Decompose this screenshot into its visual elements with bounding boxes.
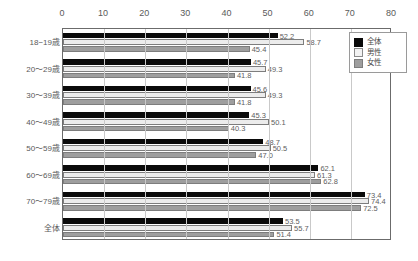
legend-item[interactable]: 全体 (354, 38, 403, 47)
bar-row: 55.7 (63, 225, 390, 231)
y-category-label: 70～79歳 (2, 195, 60, 206)
y-category-label: 18−19歳 (2, 36, 60, 47)
bar-group: 48.750.547.0 (63, 139, 390, 158)
y-category-label: 50～59歳 (2, 142, 60, 153)
bar-全体-20～29歳 (63, 59, 251, 65)
bar-女性-全体 (63, 232, 274, 238)
bar-value-label: 41.8 (235, 97, 252, 106)
bar-男性-60～69歳 (63, 172, 315, 178)
x-axis-tick-60: 60 (304, 8, 314, 18)
bar-groups: 52.258.745.445.749.341.845.649.341.845.3… (63, 29, 390, 239)
x-axis-tick-40: 40 (221, 8, 231, 18)
legend-item[interactable]: 男性 (354, 48, 403, 57)
bar-row: 62.1 (63, 165, 390, 171)
bar-全体-70～79歳 (63, 192, 365, 198)
bar-女性-70～79歳 (63, 205, 361, 211)
bar-group: 73.474.472.5 (63, 192, 390, 211)
bar-row: 74.4 (63, 198, 390, 204)
x-axis-tick-80: 80 (386, 8, 396, 18)
x-axis-tick-70: 70 (345, 8, 355, 18)
gridline-50 (269, 29, 270, 239)
gridline-30 (186, 29, 187, 239)
y-category-label: 30～39歳 (2, 89, 60, 100)
bar-group: 45.649.341.8 (63, 86, 390, 105)
bar-row: 47.0 (63, 152, 390, 158)
bar-group: 45.350.140.3 (63, 112, 390, 131)
bar-row: 61.3 (63, 172, 390, 178)
legend-label: 女性 (367, 59, 381, 67)
y-category-label: 全体 (2, 221, 60, 232)
bar-row: 41.8 (63, 73, 390, 79)
bar-row: 48.7 (63, 139, 390, 145)
bar-value-label: 40.3 (229, 124, 246, 133)
bar-全体-40～49歳 (63, 112, 249, 118)
gridline-40 (228, 29, 229, 239)
bar-row: 49.3 (63, 92, 390, 98)
y-category-label: 20～29歳 (2, 62, 60, 73)
legend-swatch-icon (354, 38, 363, 47)
legend-label: 全体 (367, 38, 381, 46)
bar-row: 73.4 (63, 192, 390, 198)
x-axis-tick-20: 20 (139, 8, 149, 18)
bar-value-label: 62.8 (321, 177, 338, 186)
gridline-20 (145, 29, 146, 239)
bar-group: 45.749.341.8 (63, 59, 390, 78)
bar-全体-30～39歳 (63, 86, 251, 92)
bar-row: 45.6 (63, 86, 390, 92)
x-axis-tick-labels: 01020304050607080 (62, 8, 391, 26)
bar-row: 45.4 (63, 46, 390, 52)
bar-女性-20～29歳 (63, 73, 235, 79)
bar-value-label: 41.8 (235, 71, 252, 80)
legend-label: 男性 (367, 49, 381, 57)
chart-legend: 全体男性女性 (349, 32, 407, 73)
bar-row: 45.7 (63, 59, 390, 65)
bar-row: 52.2 (63, 33, 390, 39)
y-axis-category-labels: 18−19歳20～29歳30～39歳40～49歳50～59歳60～69歳70～7… (0, 28, 60, 240)
bar-row: 53.5 (63, 218, 390, 224)
bar-chart: 01020304050607080 18−19歳20～29歳30～39歳40～4… (0, 0, 418, 261)
y-category-label: 60～69歳 (2, 168, 60, 179)
plot-area: 52.258.745.445.749.341.845.649.341.845.3… (62, 28, 391, 240)
bar-group: 52.258.745.4 (63, 33, 390, 52)
bar-row: 41.8 (63, 99, 390, 105)
legend-item[interactable]: 女性 (354, 59, 403, 68)
bar-row: 45.3 (63, 112, 390, 118)
bar-row: 51.4 (63, 232, 390, 238)
bar-女性-18−19歳 (63, 46, 250, 52)
bar-row: 62.8 (63, 179, 390, 185)
bar-row: 40.3 (63, 126, 390, 132)
bar-value-label: 72.5 (361, 203, 378, 212)
bar-全体-60～69歳 (63, 165, 318, 171)
bar-男性-70～79歳 (63, 198, 369, 204)
bar-row: 58.7 (63, 39, 390, 45)
bar-女性-60～69歳 (63, 179, 321, 185)
bar-value-label: 51.4 (274, 230, 291, 239)
bar-row: 50.1 (63, 119, 390, 125)
bar-row: 72.5 (63, 205, 390, 211)
bar-男性-全体 (63, 225, 292, 231)
bar-row: 49.3 (63, 66, 390, 72)
gridline-10 (104, 29, 105, 239)
gridline-60 (310, 29, 311, 239)
bar-男性-50～59歳 (63, 145, 271, 151)
y-category-label: 40～49歳 (2, 115, 60, 126)
bar-value-label: 47.0 (256, 150, 273, 159)
bar-女性-30～39歳 (63, 99, 235, 105)
x-axis-tick-50: 50 (263, 8, 273, 18)
legend-swatch-icon (354, 48, 363, 57)
bar-group: 62.161.362.8 (63, 165, 390, 184)
bar-全体-50～59歳 (63, 139, 263, 145)
x-axis-tick-10: 10 (98, 8, 108, 18)
bar-全体-全体 (63, 218, 283, 224)
bar-value-label: 45.4 (250, 44, 267, 53)
bar-全体-18−19歳 (63, 33, 278, 39)
x-axis-tick-0: 0 (59, 8, 64, 18)
bar-group: 53.555.751.4 (63, 218, 390, 237)
legend-swatch-icon (354, 59, 363, 68)
x-axis-tick-30: 30 (180, 8, 190, 18)
bar-row: 50.5 (63, 145, 390, 151)
